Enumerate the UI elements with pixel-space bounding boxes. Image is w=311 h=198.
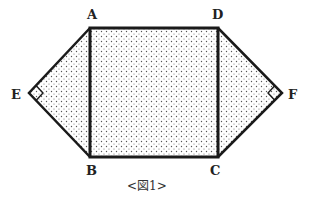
- label-c: C: [210, 163, 220, 178]
- label-e: E: [11, 87, 21, 102]
- label-f: F: [288, 87, 298, 102]
- label-a: A: [86, 7, 98, 22]
- label-d: D: [212, 7, 223, 22]
- label-b: B: [86, 163, 97, 178]
- shaded-region: [29, 28, 282, 157]
- figure-caption: <図1>: [127, 179, 167, 193]
- geometry-figure: A D E F B C <図1>: [0, 0, 311, 198]
